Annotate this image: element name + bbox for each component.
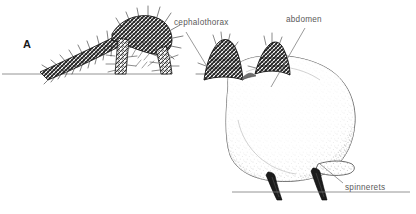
abdomen-rear-lobe [315,161,354,175]
label-cephalothorax: cephalothorax [174,18,229,27]
label-abdomen: abdomen [286,15,322,24]
illustration-canvas: A [0,0,416,214]
label-spinnerets: spinnerets [345,183,385,192]
spider-anatomy-figure: A [0,0,416,214]
panel-letter-a: A [23,38,31,50]
